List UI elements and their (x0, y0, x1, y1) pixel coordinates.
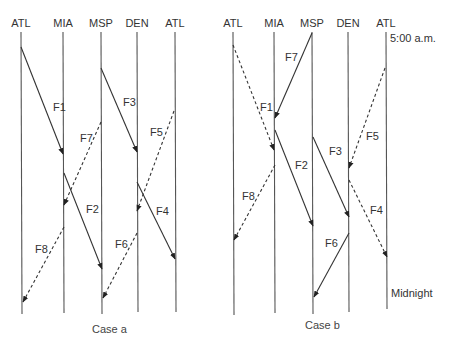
station-label-den: DEN (125, 17, 148, 29)
station-label-den: DEN (336, 17, 359, 29)
case-b-caption: Case b (305, 319, 340, 331)
flight-label-f5: F5 (366, 130, 379, 142)
flight-label-f3: F3 (329, 145, 342, 157)
flight-arrow-f7 (275, 33, 312, 118)
timeline-msp (312, 32, 313, 314)
flight-label-f8: F8 (242, 190, 255, 202)
flight-label-f2: F2 (86, 203, 99, 215)
timeline-den (348, 32, 349, 312)
flight-arrow-f8 (234, 165, 275, 240)
station-label-atl: ATL (165, 17, 184, 29)
flight-label-f3: F3 (123, 96, 136, 108)
timeline-mia (274, 32, 275, 313)
timeline-mia (63, 32, 64, 313)
flight-label-f4: F4 (156, 205, 169, 217)
station-label-atl: ATL (11, 17, 30, 29)
timeline-msp (101, 32, 102, 314)
flight-arrow-f4 (137, 182, 175, 259)
flight-arrow-f5 (349, 68, 385, 168)
timeline-den (137, 32, 138, 312)
station-label-mia: MIA (53, 17, 73, 29)
timeline-atl (386, 32, 387, 309)
flight-label-f6: F6 (115, 238, 128, 250)
case-a-caption: Case a (92, 323, 128, 335)
flight-label-f4: F4 (370, 204, 383, 216)
flight-arrow-f8 (23, 227, 64, 302)
start-time-label: 5:00 a.m. (390, 32, 436, 44)
flight-arrow-f2 (275, 130, 313, 226)
flight-arrow-f4 (349, 180, 387, 257)
flight-arrow-f2 (64, 173, 102, 269)
timeline-atl (233, 32, 234, 315)
station-label-msp: MSP (89, 17, 113, 29)
case-a-diagram: ATLMIAMSPDENATLF1F7F3F5F2F4F8F6 (11, 17, 184, 314)
station-label-mia: MIA (264, 17, 284, 29)
flight-label-f1: F1 (260, 101, 273, 113)
flight-label-f7: F7 (80, 132, 93, 144)
station-label-atl: ATL (223, 17, 242, 29)
flight-label-f6: F6 (325, 237, 338, 249)
flight-label-f5: F5 (150, 126, 163, 138)
flight-label-f8: F8 (35, 243, 48, 255)
end-time-label: Midnight (391, 287, 433, 299)
timeline-atl (21, 32, 22, 314)
flight-label-f7: F7 (285, 51, 298, 63)
case-b-diagram: ATLMIAMSPDENATLF7F1F2F3F5F8F4F6 (223, 17, 395, 315)
station-label-msp: MSP (300, 17, 324, 29)
flight-arrow-f3 (101, 68, 137, 152)
flight-label-f2: F2 (295, 159, 308, 171)
flight-diagram: ATLMIAMSPDENATLF1F7F3F5F2F4F8F6 ATLMIAMS… (0, 0, 450, 347)
timeline-atl (175, 32, 176, 312)
station-label-atl: ATL (376, 17, 395, 29)
flight-label-f1: F1 (53, 101, 66, 113)
flight-arrow-f1 (233, 45, 274, 150)
